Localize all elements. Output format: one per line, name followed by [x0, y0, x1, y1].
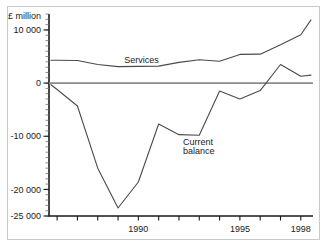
y-axis-tick-label: -20 000 — [10, 185, 41, 195]
current-balance-label-line1: Current — [183, 137, 214, 147]
series-line-services — [51, 20, 311, 67]
services-label: Services — [124, 55, 159, 65]
line-chart: 10 0000-10 000-20 000-25 000£ million199… — [0, 0, 327, 246]
y-axis-title: £ million — [8, 11, 41, 21]
y-axis-tick-label: -10 000 — [10, 131, 41, 141]
x-axis-tick-label: 1995 — [230, 224, 250, 234]
chart-figure: 10 0000-10 000-20 000-25 000£ million199… — [0, 0, 327, 246]
current-balance-label-line2: balance — [183, 146, 215, 156]
chart-axes — [49, 14, 313, 216]
y-axis-tick-label: 10 000 — [13, 25, 41, 35]
y-axis-tick-label: -25 000 — [10, 211, 41, 221]
x-axis-tick-label: 1998 — [291, 224, 311, 234]
y-axis-tick-label: 0 — [36, 78, 41, 88]
x-axis-tick-label: 1990 — [128, 224, 148, 234]
series-line-current-balance — [51, 65, 311, 209]
